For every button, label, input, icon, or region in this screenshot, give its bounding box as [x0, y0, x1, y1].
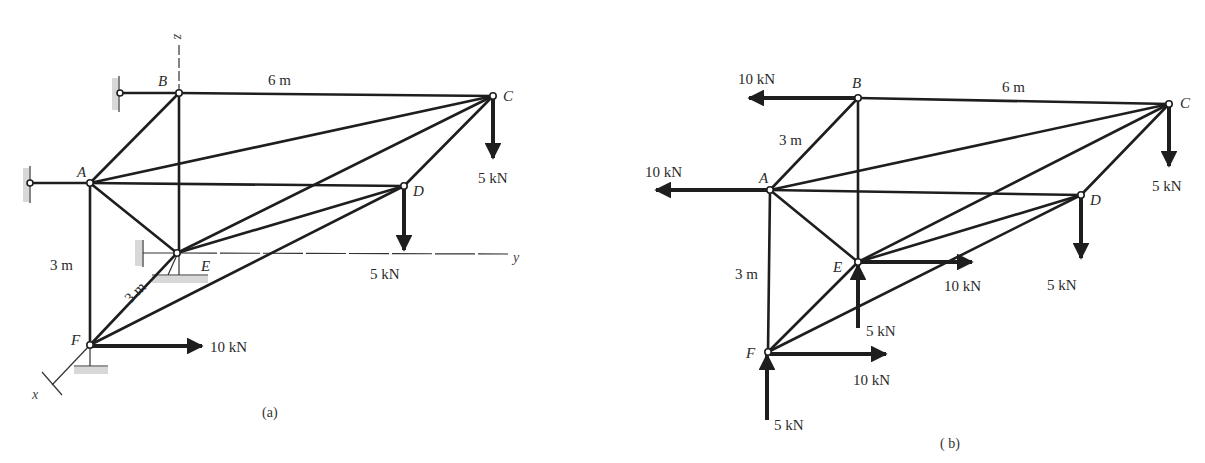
dimension-bc: 6 m [268, 72, 291, 88]
joint-b [855, 95, 861, 101]
reaction-label-e-horizontal: 10 kN [944, 278, 981, 294]
x-axis [52, 345, 90, 385]
joint-c [490, 93, 496, 99]
joint-b [176, 90, 182, 96]
support-f [74, 345, 108, 374]
caption-b: ( b) [940, 436, 960, 452]
node-label-f: F [70, 332, 81, 348]
node-label-b: B [158, 73, 167, 89]
dimension-af: 3 m [50, 257, 73, 273]
joint-a [767, 187, 773, 193]
load-label-d: 5 kN [370, 266, 400, 282]
load-label-d: 5 kN [1047, 277, 1077, 293]
reaction-label-b: 10 kN [738, 71, 775, 87]
node-label-c: C [503, 88, 514, 104]
truss-members-b [768, 98, 1169, 352]
dimension-ab: 3 m [779, 132, 802, 148]
caption-a: (a) [262, 405, 278, 421]
x-axis-support-tick [42, 372, 62, 395]
load-label-c: 5 kN [1152, 178, 1182, 194]
x-axis-label: x [31, 387, 39, 402]
node-label-d: D [1089, 192, 1101, 208]
node-label-f: F [745, 345, 756, 361]
load-label-c: 5 kN [478, 170, 508, 186]
y-axis [177, 253, 508, 254]
support-b [112, 76, 179, 112]
dimension-bc: 6 m [1002, 79, 1025, 95]
reaction-label-f-vertical: 5 kN [774, 417, 804, 433]
figure-a: z y x [23, 33, 520, 421]
load-label-f: 10 kN [210, 339, 247, 355]
joint-d [1078, 192, 1084, 198]
joint-c [1166, 101, 1172, 107]
joint-a [87, 180, 93, 186]
y-axis-label: y [511, 250, 520, 265]
joint-f [87, 342, 93, 348]
node-label-b: B [852, 75, 861, 91]
truss-members-a [90, 93, 493, 345]
node-label-e: E [832, 259, 842, 275]
node-label-a: A [76, 164, 87, 180]
joint-f [765, 349, 771, 355]
reaction-label-f-horizontal: 10 kN [853, 372, 890, 388]
z-axis-label: z [171, 33, 186, 40]
reaction-label-a: 10 kN [645, 164, 682, 180]
reaction-label-e-vertical: 5 kN [866, 323, 896, 339]
truss-diagram: z y x [0, 0, 1205, 463]
joint-e [174, 250, 180, 256]
dimension-ef: 3 m [121, 278, 149, 306]
node-label-e: E [200, 258, 210, 274]
joint-d [401, 183, 407, 189]
node-label-a: A [758, 170, 769, 186]
node-label-c: C [1180, 95, 1191, 111]
dimension-af: 3 m [735, 266, 758, 282]
figure-b: B C A D E F 6 m 3 m 3 m 10 kN 10 kN 5 kN… [645, 71, 1191, 452]
joint-e [855, 259, 861, 265]
node-label-d: D [412, 183, 424, 199]
